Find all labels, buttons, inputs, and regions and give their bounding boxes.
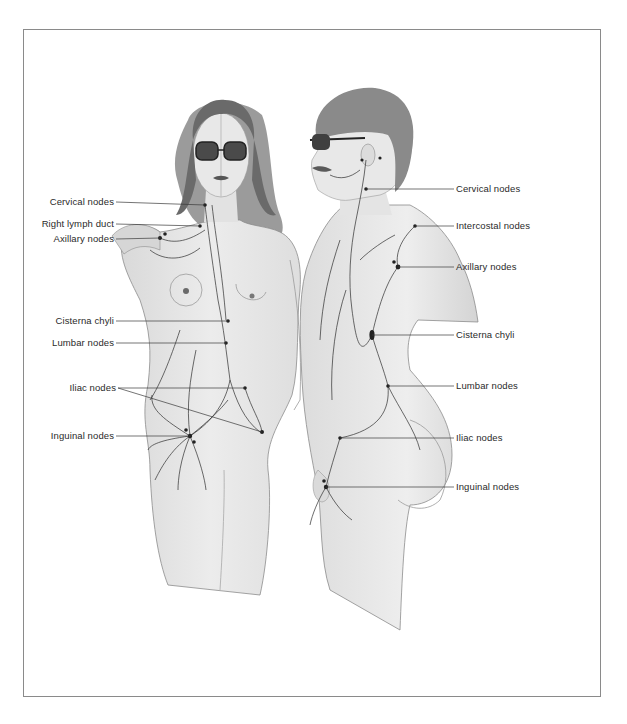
label-lumbar-nodes-female: Lumbar nodes (52, 337, 114, 348)
label-cisterna-chyli-male: Cisterna chyli (456, 329, 514, 340)
label-axillary-nodes-female: Axillary nodes (53, 233, 114, 244)
label-cervical-nodes-male: Cervical nodes (456, 183, 520, 194)
label-iliac-nodes-male: Iliac nodes (456, 432, 503, 443)
label-inguinal-nodes-male: Inguinal nodes (456, 481, 519, 492)
lymphatic-illustration (0, 0, 627, 724)
label-intercostal-nodes: Intercostal nodes (456, 220, 530, 231)
female-figure (112, 100, 301, 595)
label-axillary-nodes-male: Axillary nodes (456, 261, 517, 272)
label-iliac-nodes-female: Iliac nodes (69, 382, 116, 393)
male-figure (300, 88, 478, 630)
label-cisterna-chyli-female: Cisterna chyli (56, 315, 114, 326)
label-cervical-nodes-female: Cervical nodes (50, 196, 114, 207)
label-right-lymph-duct: Right lymph duct (42, 218, 114, 229)
label-inguinal-nodes-female: Inguinal nodes (51, 430, 114, 441)
label-lumbar-nodes-male: Lumbar nodes (456, 380, 518, 391)
